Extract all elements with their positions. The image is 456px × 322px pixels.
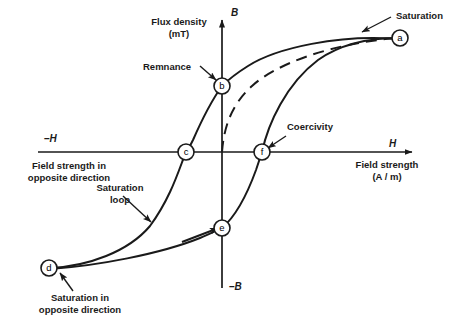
point-label-d: d: [41, 260, 57, 276]
point-label-b: b: [214, 78, 230, 94]
coercivity-leader: [268, 136, 286, 148]
h-axis-title-line2: (A / m): [341, 171, 433, 183]
annotation-saturation-loop-line2: loop: [78, 194, 162, 206]
b-axis-title-line1: Flux density: [148, 16, 210, 28]
b-axis-symbol: B: [231, 7, 238, 19]
annotation-saturation: Saturation: [396, 10, 443, 22]
h-axis-title-line1: Field strength: [341, 159, 433, 171]
annotation-field-strength-opposite-line1: Field strength in: [6, 160, 132, 172]
negative-h-symbol: –H: [44, 133, 57, 145]
hysteresis-diagram: a b c d e f Flux density (mT) B –B H –H …: [0, 0, 456, 322]
initial-magnetisation-curve: [222, 38, 396, 152]
annotation-coercivity: Coercivity: [287, 121, 333, 133]
h-axis-symbol: H: [389, 138, 396, 150]
annotation-saturation-opposite-line2: opposite direction: [22, 304, 138, 316]
point-label-f: f: [254, 144, 270, 160]
saturation-leader: [362, 17, 391, 32]
saturation-opposite-leader: [60, 273, 73, 291]
b-axis-title-line2: (mT): [148, 28, 210, 40]
annotation-saturation-opposite-line1: Saturation in: [22, 292, 138, 304]
annotation-saturation-loop-line1: Saturation: [78, 182, 162, 194]
annotation-remnance: Remnance: [143, 61, 191, 73]
point-label-e: e: [214, 220, 230, 236]
point-label-a: a: [392, 30, 408, 46]
flow-direction-marker: [182, 229, 216, 242]
negative-b-symbol: –B: [229, 281, 242, 293]
point-label-c: c: [178, 144, 194, 160]
